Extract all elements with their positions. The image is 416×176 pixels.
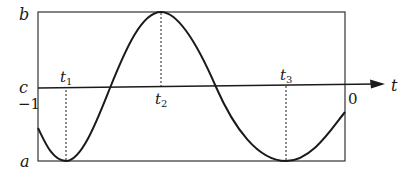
t3-label: t3 [280, 66, 292, 85]
left-end-label: −1 [18, 95, 40, 113]
t1-label: t1 [60, 68, 72, 87]
level-label-a: a [20, 152, 30, 171]
axis-arrowhead-icon [370, 80, 385, 89]
t2-label: t2 [155, 90, 167, 109]
right-end-label: 0 [348, 90, 358, 108]
axis-label-t: t [391, 76, 398, 95]
function-diagram: b c a −1 0 t t1 t2 t3 [0, 0, 416, 176]
level-label-b: b [19, 5, 29, 24]
t-axis [38, 84, 376, 88]
